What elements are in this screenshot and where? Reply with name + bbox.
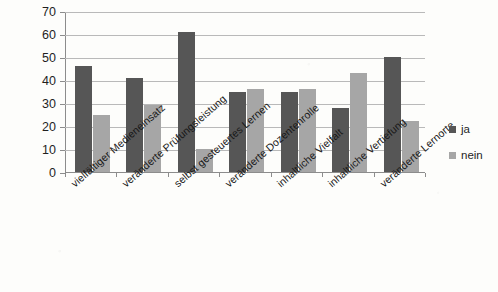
bar-ja <box>75 66 92 172</box>
x-tick <box>374 173 375 177</box>
bar-chart: 010203040506070 vielfältiger Medieneinsa… <box>0 0 498 292</box>
x-tick <box>425 173 426 177</box>
y-tick-label-10: 10 <box>42 144 56 157</box>
y-tick-50 <box>60 58 65 59</box>
legend-label-ja: ja <box>461 124 470 136</box>
y-tick-label-40: 40 <box>42 75 56 88</box>
y-tick-10 <box>60 150 65 151</box>
y-tick-label-30: 30 <box>42 98 56 111</box>
x-tick <box>116 173 117 177</box>
y-axis-line <box>65 12 66 173</box>
legend-item-ja: ja <box>449 124 483 136</box>
legend-item-nein: nein <box>449 150 483 162</box>
x-tick <box>65 173 66 177</box>
y-tick-label-0: 0 <box>49 167 56 180</box>
y-tick-30 <box>60 104 65 105</box>
square-swatch-icon <box>449 152 456 159</box>
legend-label-nein: nein <box>461 150 483 162</box>
y-tick-70 <box>60 12 65 13</box>
y-tick-40 <box>60 81 65 82</box>
y-tick-20 <box>60 127 65 128</box>
x-tick <box>168 173 169 177</box>
y-tick-60 <box>60 35 65 36</box>
x-tick <box>271 173 272 177</box>
y-tick-label-50: 50 <box>42 52 56 65</box>
bar-ja <box>384 57 401 172</box>
chart-legend: ja nein <box>449 124 483 175</box>
x-tick <box>219 173 220 177</box>
y-tick-label-60: 60 <box>42 29 56 42</box>
bar-ja <box>178 32 195 172</box>
y-tick-label-70: 70 <box>42 6 56 19</box>
y-tick-label-20: 20 <box>42 121 56 134</box>
square-swatch-icon <box>449 126 456 133</box>
x-tick <box>322 173 323 177</box>
